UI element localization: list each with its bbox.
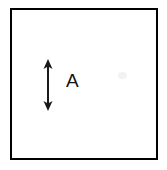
outer-square-outline	[10, 8, 158, 160]
dimension-label-a: A	[66, 71, 79, 90]
faint-scan-smudge	[118, 72, 127, 79]
figure-canvas: A	[0, 0, 167, 170]
vertical-double-headed-arrow-icon	[38, 56, 60, 114]
